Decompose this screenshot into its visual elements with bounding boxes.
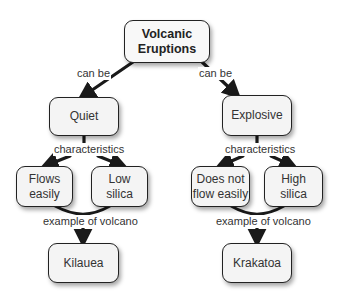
node-quiet: Quiet [49, 97, 119, 136]
concept-map: Volcanic Eruptions can be can be Quiet E… [0, 0, 345, 305]
node-flows-easily: Flows easily [16, 166, 73, 207]
node-text-line: High [280, 172, 307, 187]
link-label-can-be-left: can be [76, 67, 111, 80]
node-text-line: Low [106, 172, 133, 187]
node-krakatoa: Krakatoa [222, 243, 292, 283]
node-kilauea: Kilauea [48, 243, 119, 283]
node-text-line: silica [280, 187, 307, 202]
node-text-line: Quiet [70, 109, 99, 124]
node-explosive: Explosive [222, 95, 292, 136]
node-text-line: Eruptions [138, 42, 196, 57]
node-text-line: Flows [29, 172, 60, 187]
link-label-can-be-right: can be [198, 67, 233, 80]
link-label-characteristics-left: characteristics [53, 143, 125, 156]
node-text-line: Volcanic [138, 27, 196, 42]
node-text-line: easily [29, 187, 60, 202]
merge-left [55, 206, 110, 214]
arrow-quiet-to-flows-easily [45, 156, 70, 166]
node-text-line: Krakatoa [233, 256, 281, 271]
arrow-explosive-to-high-silica [271, 156, 293, 166]
arrow-explosive-to-does-not-flow [220, 156, 243, 166]
node-text-line: Does not [193, 172, 248, 187]
arrow-quiet-to-low-silica [98, 156, 123, 166]
merge-right [231, 206, 284, 214]
node-high-silica: High silica [264, 166, 323, 207]
node-text-line: Kilauea [63, 256, 103, 271]
node-does-not-flow-easily: Does not flow easily [191, 166, 250, 207]
node-text-line: Explosive [231, 108, 282, 123]
node-text-line: flow easily [193, 187, 248, 202]
link-label-example-right: example of volcano [215, 215, 312, 228]
link-label-example-left: example of volcano [42, 215, 139, 228]
node-low-silica: Low silica [91, 166, 148, 207]
node-text-line: silica [106, 187, 133, 202]
link-label-characteristics-right: characteristics [224, 143, 296, 156]
node-volcanic-eruptions: Volcanic Eruptions [124, 20, 210, 63]
